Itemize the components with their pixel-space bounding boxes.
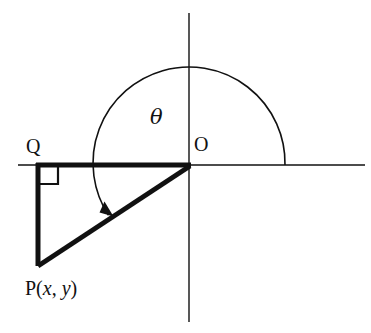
label-point-P-comma: , bbox=[52, 277, 62, 299]
label-angle-theta: θ bbox=[150, 107, 163, 128]
label-point-P-y: y bbox=[62, 277, 71, 299]
label-point-P-prefix: P( bbox=[25, 277, 43, 299]
right-angle-at-Q bbox=[39, 166, 58, 184]
label-point-Q: Q bbox=[26, 136, 40, 156]
label-point-P-x: x bbox=[43, 277, 52, 299]
label-point-P-suffix: ) bbox=[71, 277, 78, 299]
label-point-O: O bbox=[194, 134, 208, 154]
geometry-diagram: Q O θ P(x, y) bbox=[0, 0, 371, 333]
label-point-P: P(x, y) bbox=[25, 278, 77, 298]
segment-OP bbox=[38, 166, 190, 266]
